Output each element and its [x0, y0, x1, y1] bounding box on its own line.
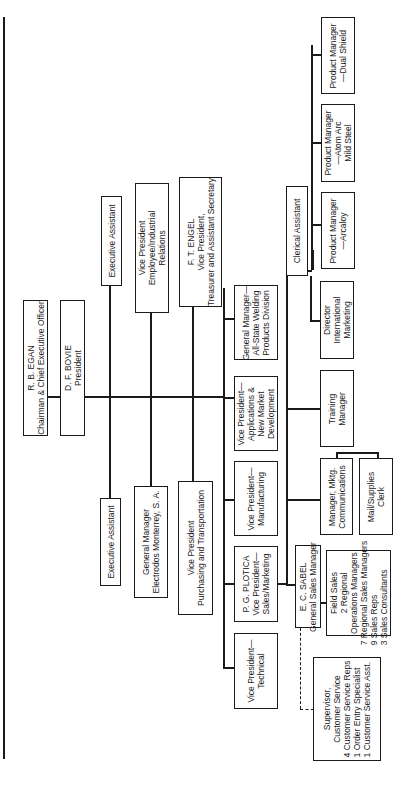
pm-arcaloy-box: Product Manager—Arcaloy	[321, 192, 355, 269]
gm-monterrey-box: General ManagerElectrodos Monterrey, S. …	[134, 486, 168, 598]
connector	[311, 224, 321, 226]
gm-allstate-line1: General Manager—	[241, 285, 251, 360]
vp-applications-line1: Vice President—	[236, 382, 246, 445]
vp-employee-line1: Vice President	[137, 211, 147, 286]
vp-sales-name: P. G. PLOTICA	[241, 552, 251, 615]
vp-purchasing-box: Vice PresidentPurchasing and Transportat…	[178, 481, 213, 615]
training-line1: Training	[327, 392, 337, 426]
mktg-comm-line2: Communications	[337, 465, 347, 528]
customer-service-line3: 4 Customer Service Reps	[342, 661, 352, 758]
page-border-line	[3, 17, 5, 199]
gm-allstate-box: General Manager—All-State WeldingProduct…	[234, 285, 278, 360]
field-sales-line4: 7 Regional Sales Managers	[359, 541, 369, 645]
general-sales-manager-box: E. C. SABELGeneral Sales Manager	[295, 545, 321, 628]
vp-manufacturing-line2: Manufacturing	[256, 467, 266, 530]
connector	[336, 452, 378, 454]
field-sales-line6: 3 Sales Consultants	[379, 541, 389, 645]
customer-service-line1: Supervisor,	[322, 661, 332, 758]
connector	[286, 499, 320, 501]
connector	[223, 288, 225, 668]
field-sales-line3: Operations Managers	[349, 541, 359, 645]
training-manager-box: TrainingManager	[320, 370, 354, 447]
field-sales-box: Field Sales2 RegionalOperations Managers…	[326, 550, 391, 636]
connector	[85, 396, 220, 398]
director-international-box: DirectorInternationalMarketing	[320, 281, 354, 359]
vp-treasurer-line1: Vice President,	[196, 178, 206, 306]
gm-monterrey-line1: General Manager	[141, 491, 151, 594]
vp-purchasing-line2: Purchasing and Transportation	[196, 490, 206, 606]
vp-sales-line1: Vice President—	[251, 552, 261, 615]
chairman-name: R. B. EGAN	[26, 301, 36, 435]
vp-applications-line3: New Market	[256, 382, 266, 445]
dir-intl-line1: Director	[322, 297, 332, 344]
pm-dualshield-line1: Product Manager	[328, 23, 338, 88]
vp-employee-line2: Employee/Industrial	[147, 211, 157, 286]
vp-treasurer-box: F. T. ENGELVice President,Treasurer and …	[179, 177, 222, 307]
field-sales-line5: 9 Sales Reps	[369, 541, 379, 645]
vp-technical-line1: Vice President—	[246, 639, 256, 702]
field-sales-line1: Field Sales	[329, 541, 339, 645]
dir-intl-line2: International	[332, 297, 342, 344]
pm-arcaloy-line1: Product Manager	[328, 198, 338, 263]
vp-technical-line2: Technical	[256, 639, 266, 702]
connector	[223, 288, 225, 318]
president-title: President	[73, 345, 83, 391]
executive-assistant-left-label: Executive Assistant	[106, 505, 116, 578]
connector	[150, 396, 152, 486]
customer-service-box: Supervisor,Customer Service4 Customer Se…	[313, 657, 381, 761]
executive-assistant-left-box: Executive Assistant	[100, 498, 121, 586]
vp-sales-line2: Sales/Marketing	[261, 552, 271, 615]
page-border-line	[3, 199, 5, 759]
mktg-comm-line1: Manager, Mktg.	[327, 465, 337, 528]
vp-treasurer-line2: Treasurer and Assistant Secretary	[206, 178, 216, 306]
connector	[278, 583, 286, 585]
gsm-name: E. C. SABEL	[298, 542, 308, 632]
gm-monterrey-line2: Electrodos Monterrey, S. A.	[151, 491, 161, 594]
training-line2: Manager	[337, 392, 347, 426]
mktg-communications-box: Manager, Mktg.Communications	[320, 458, 353, 535]
mail-clerk-line1: Mail/Supplies	[366, 471, 376, 522]
chairman-box: R. B. EGANChairman & Chief Executive Off…	[23, 300, 48, 436]
field-sales-line2: 2 Regional	[339, 541, 349, 645]
connector	[311, 142, 321, 144]
president-box: D. F. BOVIEPresident	[60, 300, 85, 436]
vp-manufacturing-box: Vice President—Manufacturing	[234, 461, 278, 536]
gm-allstate-line2: All-State Welding	[251, 285, 261, 360]
vp-purchasing-line1: Vice President	[186, 490, 196, 606]
pm-dualshield-line2: —Dual Shield	[338, 23, 348, 88]
dotted-connector	[300, 709, 314, 710]
connector	[310, 276, 312, 321]
connector	[311, 45, 313, 270]
connector	[286, 584, 295, 586]
connector	[311, 54, 321, 56]
executive-assistant-right-box: Executive Assistant	[101, 196, 122, 286]
pm-dualshield-box: Product Manager—Dual Shield	[321, 17, 355, 94]
customer-service-line5: 1 Customer Service Asst.	[362, 661, 372, 758]
dotted-connector	[300, 628, 301, 709]
vp-manufacturing-line1: Vice President—	[246, 467, 256, 530]
connector	[286, 408, 320, 410]
vp-employee-relations-box: Vice PresidentEmployee/IndustrialRelatio…	[135, 183, 169, 313]
vp-sales-box: P. G. PLOTICAVice President—Sales/Market…	[234, 546, 278, 622]
vp-applications-line4: Development	[266, 382, 276, 445]
connector	[286, 270, 288, 500]
customer-service-line2: Customer Service	[332, 661, 342, 758]
vp-applications-line2: Applications &	[246, 382, 256, 445]
vp-treasurer-name: F. T. ENGEL	[186, 178, 196, 306]
connector	[286, 500, 288, 584]
vp-technical-box: Vice President—Technical	[234, 633, 278, 709]
gsm-title: General Sales Manager	[308, 542, 318, 632]
pm-atomarc-line1: Product Manager	[323, 110, 333, 175]
dir-intl-line3: Marketing	[342, 297, 352, 344]
executive-assistant-right-label: Executive Assistant	[107, 204, 117, 277]
vp-employee-line3: Relations	[157, 211, 167, 286]
mail-clerk-line2: Clerk	[376, 471, 386, 522]
clerical-assistant-box: Clerical Assistant	[286, 186, 308, 276]
customer-service-line4: 1 Order Entry Specialist	[352, 661, 362, 758]
pm-atomarc-line3: Mild Steel	[343, 110, 353, 175]
gm-allstate-line3: Products Division	[261, 285, 271, 360]
mail-clerk-box: Mail/SuppliesClerk	[359, 458, 393, 535]
pm-arcaloy-line2: —Arcaloy	[338, 198, 348, 263]
connector	[310, 320, 320, 322]
connector	[192, 396, 194, 486]
